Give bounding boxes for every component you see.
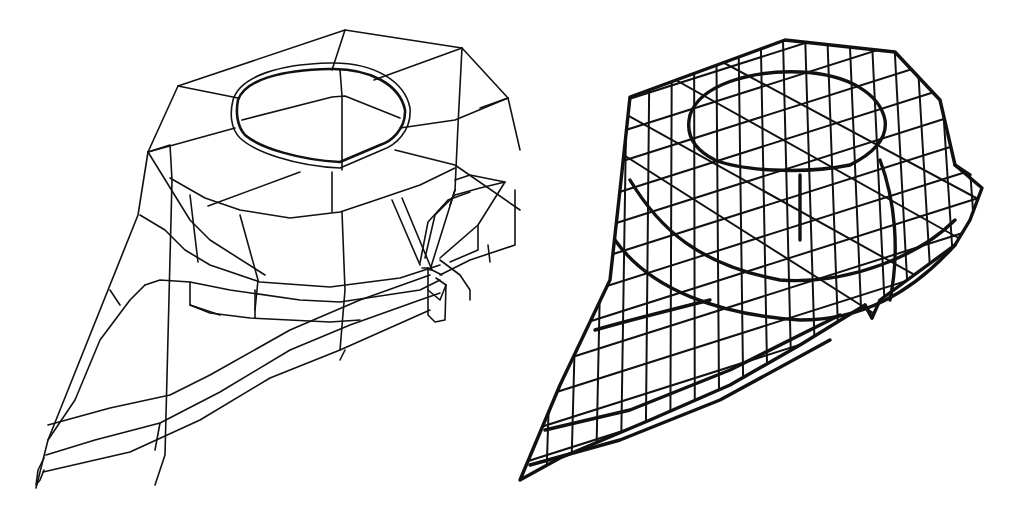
fe-mesh-drawing (500, 0, 1035, 520)
coarse-wireframe-drawing (0, 0, 540, 520)
fe-mesh-panel (500, 0, 1035, 520)
figure: coarse wireframe model finite element me… (0, 0, 1035, 520)
coarse-wireframe-panel (0, 0, 540, 520)
